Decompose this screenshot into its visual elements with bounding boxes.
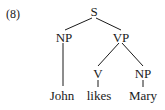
edge-vp-v (98, 43, 119, 66)
leaf-mary: Mary (129, 89, 157, 102)
node-vp: VP (113, 31, 130, 44)
leaf-likes: likes (87, 89, 112, 102)
edge-s-vp (96, 18, 121, 30)
node-s: S (90, 5, 97, 18)
node-np-subject: NP (56, 31, 73, 44)
example-number: (8) (6, 8, 20, 20)
edge-vp-np (122, 43, 143, 66)
node-v: V (93, 67, 102, 80)
edge-s-np (65, 18, 92, 30)
node-np-object: NP (135, 67, 152, 80)
leaf-john: John (50, 89, 75, 102)
